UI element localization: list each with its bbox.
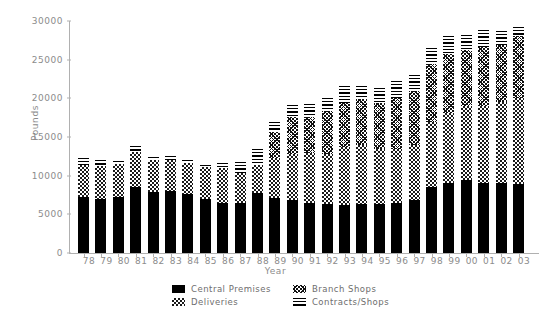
bar bbox=[78, 158, 89, 253]
bar-segment bbox=[269, 198, 280, 253]
bar bbox=[461, 35, 472, 253]
bar-segment bbox=[322, 111, 333, 154]
y-tick-mark bbox=[67, 214, 71, 215]
bar-segment bbox=[496, 31, 507, 45]
y-tick-mark bbox=[67, 59, 71, 60]
legend-item[interactable]: Contracts/Shops bbox=[293, 297, 389, 307]
bar-segment bbox=[269, 158, 280, 198]
legend-swatch-icon bbox=[172, 298, 185, 306]
bar-segment bbox=[217, 168, 228, 203]
plot-area: 050001000015000200002500030000 bbox=[70, 21, 538, 253]
bar-segment bbox=[461, 35, 472, 50]
bar-segment bbox=[217, 163, 228, 168]
y-tick-label: 15000 bbox=[32, 132, 70, 142]
bar-segment bbox=[426, 48, 437, 64]
bar-segment bbox=[513, 98, 524, 185]
bar-segment bbox=[165, 191, 176, 253]
bar-segment bbox=[409, 200, 420, 253]
bar bbox=[269, 122, 280, 253]
bar-segment bbox=[148, 157, 159, 160]
bar-segment bbox=[235, 173, 246, 203]
bar-segment bbox=[339, 86, 350, 103]
bar-segment bbox=[391, 81, 402, 97]
bar bbox=[148, 157, 159, 253]
legend-item[interactable]: Central Premises bbox=[172, 284, 271, 294]
bar-segment bbox=[235, 162, 246, 173]
bar-segment bbox=[478, 47, 489, 107]
y-tick-mark bbox=[67, 175, 71, 176]
bar-segment bbox=[182, 160, 193, 163]
bar-segment bbox=[461, 180, 472, 253]
bar-segment bbox=[443, 113, 454, 183]
bar bbox=[322, 98, 333, 253]
bar bbox=[200, 165, 211, 253]
bar-segment bbox=[113, 197, 124, 253]
bar bbox=[513, 27, 524, 253]
legend-swatch-icon bbox=[172, 285, 185, 293]
bar-segment bbox=[496, 102, 507, 183]
bar-segment bbox=[95, 199, 106, 253]
bar-segment bbox=[217, 203, 228, 253]
bar-segment bbox=[200, 165, 211, 167]
bar-segment bbox=[391, 98, 402, 150]
bar-segment bbox=[148, 160, 159, 192]
y-tick-mark bbox=[67, 137, 71, 138]
bar-segment bbox=[426, 122, 437, 187]
bar bbox=[443, 36, 454, 253]
bar bbox=[235, 162, 246, 253]
bar-segment bbox=[304, 203, 315, 253]
legend-item[interactable]: Branch Shops bbox=[293, 284, 389, 294]
bar-segment bbox=[287, 105, 298, 117]
bar bbox=[409, 75, 420, 253]
bar bbox=[113, 161, 124, 253]
stacked-bar-chart: Pounds Year 0500010000150002000025000300… bbox=[0, 0, 551, 319]
bar bbox=[374, 88, 385, 253]
bar-segment bbox=[443, 36, 454, 55]
bar-segment bbox=[269, 132, 280, 158]
bar-segment bbox=[356, 99, 367, 145]
bar-segment bbox=[374, 204, 385, 253]
bar-segment bbox=[478, 183, 489, 253]
legend-label: Contracts/Shops bbox=[312, 297, 389, 307]
bar-segment bbox=[130, 187, 141, 253]
bar-segment bbox=[496, 183, 507, 253]
bar-segment bbox=[391, 149, 402, 202]
bar bbox=[130, 146, 141, 253]
bar bbox=[356, 86, 367, 253]
bar-segment bbox=[443, 54, 454, 113]
bar-segment bbox=[304, 104, 315, 117]
legend-label: Branch Shops bbox=[312, 284, 377, 294]
legend-swatch-icon bbox=[293, 298, 306, 306]
bar-segment bbox=[304, 117, 315, 153]
y-tick-label: 30000 bbox=[32, 16, 70, 26]
bar bbox=[287, 105, 298, 253]
bar bbox=[426, 48, 437, 253]
bar-segment bbox=[113, 164, 124, 197]
legend-item[interactable]: Deliveries bbox=[172, 297, 271, 307]
y-tick-mark bbox=[67, 253, 71, 254]
bar-segment bbox=[287, 200, 298, 253]
bar-segment bbox=[461, 50, 472, 106]
bar bbox=[496, 31, 507, 253]
bar-segment bbox=[130, 146, 141, 153]
y-tick-label: 25000 bbox=[32, 55, 70, 65]
chart-legend: Central PremisesBranch ShopsDeliveriesCo… bbox=[172, 284, 389, 307]
bar-segment bbox=[78, 165, 89, 197]
bar-segment bbox=[409, 75, 420, 90]
bar-segment bbox=[113, 161, 124, 164]
bar-segment bbox=[269, 122, 280, 132]
bar-segment bbox=[252, 165, 263, 194]
bar-segment bbox=[339, 103, 350, 147]
bar-segment bbox=[409, 145, 420, 201]
y-tick-mark bbox=[67, 98, 71, 99]
bar-segment bbox=[182, 163, 193, 194]
bar-segment bbox=[356, 86, 367, 99]
bar-segment bbox=[148, 192, 159, 253]
bar-segment bbox=[95, 160, 106, 166]
bar bbox=[478, 30, 489, 253]
bar-segment bbox=[95, 166, 106, 198]
bar-segment bbox=[513, 27, 524, 36]
legend-label: Deliveries bbox=[191, 297, 238, 307]
bar-segment bbox=[200, 199, 211, 253]
bar bbox=[391, 81, 402, 253]
